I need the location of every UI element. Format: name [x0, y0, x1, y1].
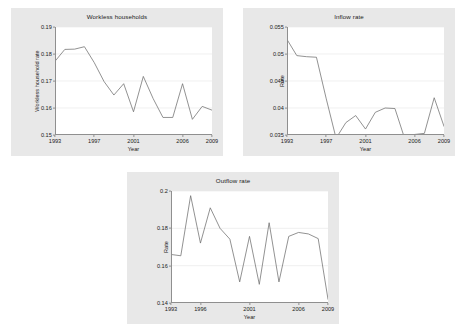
- y-tick-label: 0.045: [270, 78, 284, 84]
- figure-panel: Workless households Workless household r…: [0, 0, 462, 331]
- x-tick-label: 2001: [127, 138, 139, 144]
- x-tick-label: 2006: [292, 306, 304, 312]
- line-series-workless: [55, 27, 212, 135]
- x-tick-label: 2009: [438, 138, 450, 144]
- y-tick-label: 0.035: [270, 132, 284, 138]
- chart-title: Outflow rate: [127, 177, 339, 184]
- y-tick-label: 0.04: [273, 105, 284, 111]
- y-tick-label: 0.16: [41, 105, 52, 111]
- x-tick-label: 1993: [165, 306, 177, 312]
- x-tick-label: 1997: [88, 138, 100, 144]
- chart-title: Workless households: [11, 13, 223, 20]
- chart-title: Inflow rate: [243, 13, 455, 20]
- plot-area: Rate Year 0.140.160.180.2199319962001200…: [171, 191, 328, 303]
- x-tick-label: 1993: [281, 138, 293, 144]
- chart-outflow-rate: Outflow rate Rate Year 0.140.160.180.219…: [127, 172, 339, 324]
- y-tick-label: 0.055: [270, 24, 284, 30]
- x-tick-label: 2006: [176, 138, 188, 144]
- y-tick-label: 0.15: [41, 132, 52, 138]
- y-axis-line: [171, 191, 172, 303]
- y-tick-label: 0.14: [157, 300, 168, 306]
- x-tick-label: 2001: [243, 306, 255, 312]
- x-tick-label: 1997: [320, 138, 332, 144]
- x-axis-label: Year: [171, 314, 328, 320]
- chart-inflow-rate: Inflow rate Rate Year 0.0350.040.0450.05…: [243, 8, 455, 156]
- x-tick-label: 2001: [359, 138, 371, 144]
- y-tick-label: 0.18: [41, 51, 52, 57]
- x-tick-label: 2006: [408, 138, 420, 144]
- y-axis-label: Rate: [163, 207, 169, 287]
- y-tick-label: 0.05: [273, 51, 284, 57]
- y-axis-label: Workless household rate: [34, 21, 40, 141]
- x-tick-label: 1996: [194, 306, 206, 312]
- x-tick-label: 1993: [49, 138, 61, 144]
- line-series-inflow: [287, 27, 444, 135]
- chart-workless-households: Workless households Workless household r…: [11, 8, 223, 156]
- plot-area: Workless household rate Year 0.150.160.1…: [55, 27, 212, 135]
- y-tick-label: 0.17: [41, 78, 52, 84]
- x-axis-label: Year: [55, 146, 212, 152]
- y-tick-label: 0.2: [160, 188, 168, 194]
- x-tick-label: 2009: [206, 138, 218, 144]
- plot-area: Rate Year 0.0350.040.0450.050.0551993199…: [287, 27, 444, 135]
- x-axis-label: Year: [287, 146, 444, 152]
- line-series-outflow: [171, 191, 328, 303]
- y-tick-label: 0.16: [157, 263, 168, 269]
- y-tick-label: 0.18: [157, 225, 168, 231]
- y-tick-label: 0.19: [41, 24, 52, 30]
- x-tick-label: 2009: [322, 306, 334, 312]
